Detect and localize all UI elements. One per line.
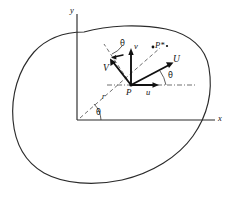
point-P-star-label: P* — [155, 41, 164, 50]
radius-label: r — [102, 93, 105, 101]
figure-container: y x r θ θ θ P P* u v U V — [0, 0, 234, 202]
theta-U-arc — [160, 71, 166, 85]
closed-region-boundary — [13, 26, 211, 183]
theta-v-label: θ — [120, 40, 125, 48]
point-P-star-marker — [152, 46, 155, 49]
vector-v-arrowhead — [128, 48, 133, 55]
theta-U-label: θ — [168, 72, 173, 80]
vector-U-label: U — [173, 55, 180, 65]
vector-V-label: V — [103, 64, 109, 74]
vector-u-label: u — [146, 88, 150, 97]
radius-ray — [80, 48, 160, 118]
y-axis-label: y — [70, 6, 74, 15]
figure-canvas — [0, 0, 234, 202]
theta-origin-label: θ — [96, 109, 101, 117]
point-P-label: P — [126, 88, 132, 97]
vector-u-arrowhead — [153, 82, 160, 87]
x-axis-label: x — [218, 114, 222, 123]
point-P-star-asterisk — [166, 45, 168, 47]
vector-v-label: v — [134, 42, 138, 51]
